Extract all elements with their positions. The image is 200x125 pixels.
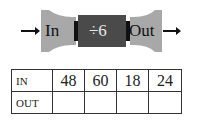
row-header-out: OUT — [12, 92, 53, 114]
table-row-out: OUT — [12, 92, 182, 114]
output-label: Out — [129, 21, 155, 41]
table-row-in: IN 48 60 18 24 — [12, 70, 182, 92]
input-label: In — [45, 21, 59, 41]
in-value-1: 48 — [53, 70, 85, 92]
out-value-4[interactable] — [149, 92, 182, 114]
left-connector — [74, 21, 78, 41]
operation-label: ÷6 — [89, 21, 107, 41]
input-output-table: IN 48 60 18 24 OUT — [11, 69, 182, 114]
output-arrow-icon — [163, 27, 181, 35]
out-value-1[interactable] — [53, 92, 85, 114]
input-arrow-icon — [21, 27, 40, 35]
out-value-2[interactable] — [85, 92, 117, 114]
row-header-in: IN — [12, 70, 53, 92]
function-machine: In ÷6 Out — [0, 0, 200, 60]
in-value-3: 18 — [117, 70, 149, 92]
in-value-2: 60 — [85, 70, 117, 92]
out-value-3[interactable] — [117, 92, 149, 114]
in-value-4: 24 — [149, 70, 182, 92]
